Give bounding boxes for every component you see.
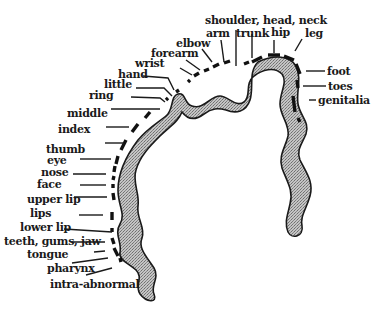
label-leg: leg (305, 27, 324, 40)
label-trunk: trunk (236, 27, 270, 40)
label-ring: ring (89, 89, 114, 102)
label-upper-lip: upper lip (27, 193, 81, 206)
cortex-band (118, 57, 311, 301)
label-toes: toes (328, 80, 353, 93)
label-intra-abnormal: intra-abnormal (50, 278, 140, 291)
label-teeth-gums-jaw: teeth, gums, jaw (4, 235, 102, 248)
label-pharynx: pharynx (47, 262, 95, 275)
label-face: face (37, 178, 62, 191)
label-tongue: tongue (27, 248, 69, 261)
label-middle: middle (67, 107, 108, 120)
label-lips: lips (30, 207, 51, 220)
label-shoulder-head-neck: shoulder, head, neck (205, 14, 328, 27)
label-lower-lip: lower lip (20, 221, 72, 234)
label-index: index (58, 123, 91, 136)
label-foot: foot (327, 65, 352, 78)
label-hip: hip (271, 26, 291, 39)
label-genitalia: genitalia (318, 94, 370, 107)
homunculus-diagram: shoulder, head, neck arm trunk hip leg e… (0, 0, 372, 312)
